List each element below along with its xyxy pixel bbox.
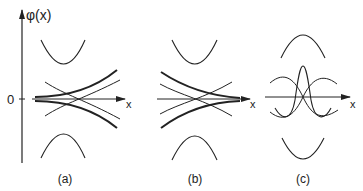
thin-curve-1 bbox=[45, 82, 120, 119]
x-axis-label: x bbox=[250, 98, 256, 110]
panel-a: φ(x) 0 x (a) bbox=[7, 7, 132, 186]
upper-potential-curve bbox=[41, 40, 85, 64]
x-axis-label: x bbox=[350, 98, 356, 110]
x-axis-label: x bbox=[126, 98, 132, 110]
oscillating-curve-1 bbox=[270, 77, 338, 116]
origin-label: 0 bbox=[7, 92, 14, 107]
figure-canvas: φ(x) 0 x (a) x (b) x bbox=[0, 0, 363, 191]
peak-curve bbox=[275, 66, 331, 117]
thick-curve-upper bbox=[161, 72, 240, 98]
panel-b: x (b) bbox=[157, 40, 256, 186]
panel-a-caption: (a) bbox=[58, 172, 73, 186]
upper-potential-curve bbox=[172, 40, 217, 64]
lower-potential-curve bbox=[172, 136, 217, 160]
lower-potential-curve bbox=[282, 138, 324, 159]
y-axis-label: φ(x) bbox=[26, 7, 51, 23]
lower-potential-curve bbox=[41, 134, 85, 158]
panel-b-caption: (b) bbox=[188, 172, 203, 186]
panel-c: x (c) bbox=[265, 35, 356, 186]
thick-curve-lower bbox=[161, 101, 240, 128]
panel-c-caption: (c) bbox=[296, 172, 310, 186]
upper-potential-curve bbox=[281, 35, 325, 58]
thin-curve-2 bbox=[45, 80, 120, 116]
